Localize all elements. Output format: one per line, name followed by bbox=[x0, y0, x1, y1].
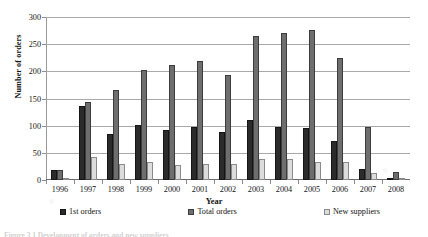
y-axis-tick-label: 200 bbox=[29, 67, 41, 76]
chart-figure: Number of orders 050100150200250300 1996… bbox=[0, 0, 428, 237]
bar-group-2004: 2004 bbox=[270, 17, 298, 180]
bar-group-1999: 1999 bbox=[130, 17, 158, 180]
bar-2001-series-2 bbox=[203, 164, 209, 180]
bar-2001-series-1 bbox=[197, 61, 203, 180]
x-axis-tick-label: 2008 bbox=[388, 185, 404, 194]
x-axis-tick-label: 2007 bbox=[360, 185, 376, 194]
x-axis-tick-mark bbox=[270, 180, 271, 184]
y-axis-tick-label: 250 bbox=[29, 40, 41, 49]
legend-label: Total orders bbox=[197, 207, 236, 216]
bar-2007-series-1 bbox=[365, 127, 371, 180]
x-axis-tick-mark bbox=[242, 180, 243, 184]
bar-group-2003: 2003 bbox=[242, 17, 270, 180]
bar-1999-series-2 bbox=[147, 162, 153, 180]
bar-group-2005: 2005 bbox=[298, 17, 326, 180]
x-axis-tick-mark bbox=[102, 180, 103, 184]
y-axis-tick-label: 100 bbox=[29, 121, 41, 130]
bar-2008-series-2 bbox=[399, 178, 405, 180]
bar-2000-series-2 bbox=[175, 165, 181, 180]
x-axis-tick-mark bbox=[158, 180, 159, 184]
x-axis-tick-label: 2006 bbox=[332, 185, 348, 194]
x-axis-tick-mark bbox=[326, 180, 327, 184]
legend-item-2[interactable]: New suppliers bbox=[324, 207, 380, 216]
bar-1996-series-2 bbox=[63, 178, 69, 180]
legend-label: New suppliers bbox=[333, 207, 380, 216]
bar-group-2006: 2006 bbox=[326, 17, 354, 180]
bar-group-1996: 1996 bbox=[46, 17, 74, 180]
x-axis-tick-label: 2000 bbox=[164, 185, 180, 194]
bar-2005-series-1 bbox=[309, 30, 315, 181]
x-axis-tick-label: 2001 bbox=[192, 185, 208, 194]
x-axis-tick-label: 1999 bbox=[136, 185, 152, 194]
x-axis-title: Year bbox=[0, 197, 428, 206]
y-axis-tick-label: 300 bbox=[29, 13, 41, 22]
bar-1997-series-2 bbox=[91, 157, 97, 180]
bar-group-2007: 2007 bbox=[354, 17, 382, 180]
bar-groups: 1996199719981999200020012002200320042005… bbox=[46, 17, 410, 180]
bar-2002-series-2 bbox=[231, 164, 237, 180]
legend-item-1[interactable]: Total orders bbox=[188, 207, 236, 216]
y-axis-tick-label: 150 bbox=[29, 94, 41, 103]
x-axis-tick-label: 1996 bbox=[52, 185, 68, 194]
legend-item-0[interactable]: 1st orders bbox=[60, 207, 101, 216]
bar-2000-series-1 bbox=[169, 65, 175, 180]
bar-2003-series-2 bbox=[259, 159, 265, 180]
bar-group-2008: 2008 bbox=[382, 17, 410, 180]
x-axis-tick-mark bbox=[186, 180, 187, 184]
legend-swatch-icon bbox=[188, 209, 194, 215]
x-axis-tick-label: 2002 bbox=[220, 185, 236, 194]
bar-group-2002: 2002 bbox=[214, 17, 242, 180]
x-axis-tick-label: 2005 bbox=[304, 185, 320, 194]
plot-area: 050100150200250300 199619971998199920002… bbox=[46, 17, 410, 180]
chart-legend: 1st ordersTotal ordersNew suppliers bbox=[60, 207, 380, 216]
bar-group-2000: 2000 bbox=[158, 17, 186, 180]
bar-group-1997: 1997 bbox=[74, 17, 102, 180]
x-axis-tick-label: 1997 bbox=[80, 185, 96, 194]
x-axis-tick-label: 2004 bbox=[276, 185, 292, 194]
figure-caption: Figure 3.1 Development of orders and new… bbox=[4, 231, 304, 237]
bar-2004-series-2 bbox=[287, 159, 293, 180]
x-axis-tick-mark bbox=[354, 180, 355, 184]
x-axis-tick-mark bbox=[74, 180, 75, 184]
x-axis-tick-label: 2003 bbox=[248, 185, 264, 194]
legend-swatch-icon bbox=[60, 209, 66, 215]
x-axis-tick-mark bbox=[298, 180, 299, 184]
x-axis-tick-mark bbox=[214, 180, 215, 184]
y-axis-tick-label: 50 bbox=[33, 148, 41, 157]
x-axis-tick-mark bbox=[130, 180, 131, 184]
legend-label: 1st orders bbox=[69, 207, 101, 216]
x-axis-tick-label: 1998 bbox=[108, 185, 124, 194]
bar-group-1998: 1998 bbox=[102, 17, 130, 180]
bar-1998-series-2 bbox=[119, 164, 125, 180]
bar-2007-series-2 bbox=[371, 173, 377, 180]
bar-2004-series-1 bbox=[281, 33, 287, 180]
bar-group-2001: 2001 bbox=[186, 17, 214, 180]
y-axis-tick-label: 0 bbox=[37, 176, 41, 185]
bar-2005-series-2 bbox=[315, 162, 321, 180]
x-axis-tick-mark bbox=[46, 180, 47, 184]
legend-swatch-icon bbox=[324, 209, 330, 215]
bar-2006-series-2 bbox=[343, 162, 349, 180]
y-axis-title: Number of orders bbox=[14, 7, 23, 127]
x-axis-tick-mark bbox=[382, 180, 383, 184]
